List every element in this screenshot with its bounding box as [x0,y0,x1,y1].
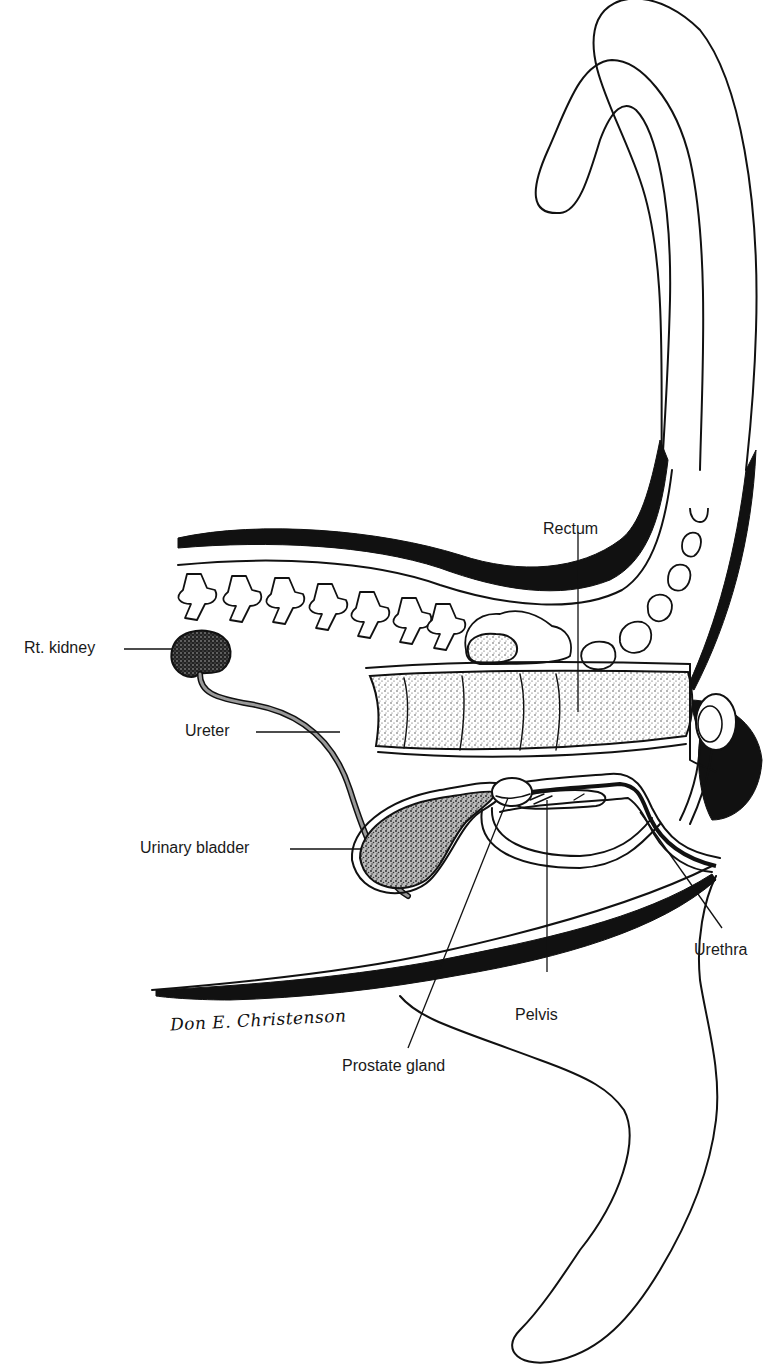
label-rectum: Rectum [543,520,598,538]
kidney-drawing [171,631,230,677]
label-rt-kidney: Rt. kidney [24,639,95,657]
anatomy-diagram: Rectum Rt. kidney Ureter Urinary bladder… [0,0,784,1371]
prostate-drawing [492,778,532,806]
label-ureter: Ureter [185,722,229,740]
label-prostate-gland: Prostate gland [342,1057,445,1075]
tail-outline [536,0,757,470]
diagram-drawing [0,0,784,1371]
rectum-drawing [366,662,716,772]
bladder-drawing [352,783,505,893]
belly-fur [152,866,716,1000]
label-urethra: Urethra [694,941,747,959]
label-pelvis: Pelvis [515,1006,558,1024]
label-urinary-bladder: Urinary bladder [140,839,249,857]
